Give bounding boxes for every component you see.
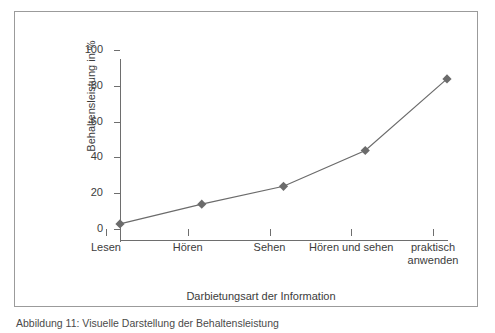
figure-caption: Abbildung 11: Visuelle Darstellung der B… (16, 317, 279, 329)
figure-frame: Behaltensleistung in % 020406080100 Lese… (14, 11, 478, 307)
series-markers (115, 74, 451, 228)
data-point-1 (197, 200, 206, 209)
series-line (120, 79, 447, 224)
data-point-0 (115, 219, 124, 228)
data-point-2 (279, 182, 288, 191)
x-axis-title: Darbietungsart der Information (29, 290, 493, 303)
data-series-layer (15, 12, 495, 333)
